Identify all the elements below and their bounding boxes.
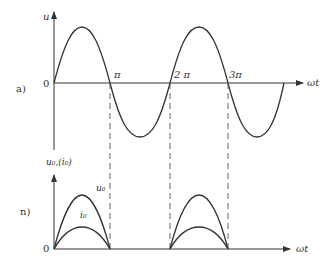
- panel-a-tick-2pi: 2 π: [173, 69, 191, 80]
- dashed-guides: [110, 83, 228, 249]
- u0-arch-1: [54, 195, 110, 249]
- panel-b-y-axis-label: u₀,(i₀): [46, 157, 72, 167]
- u0-curve-label: u₀: [96, 183, 106, 193]
- half-wave-rectifier-waveform-diagram: u 0 a) π 2 π 3π ωt u₀,(i₀) 0 n) u₀ i₀ ωt: [0, 0, 334, 270]
- i0-arch-2: [170, 227, 228, 249]
- panel-a-origin-label: 0: [43, 78, 49, 89]
- panel-b: u₀,(i₀) 0 n) u₀ i₀ ωt: [20, 157, 309, 254]
- panel-a-tick-pi: π: [113, 69, 121, 80]
- panel-a-sine-curve: [54, 27, 284, 137]
- panel-a-x-axis-label: ωt: [307, 77, 320, 88]
- u0-arch-2: [170, 195, 228, 249]
- i0-arch-1: [54, 227, 110, 249]
- i0-curve-label: i₀: [80, 210, 87, 220]
- panel-b-x-axis-label: ωt: [296, 243, 309, 254]
- panel-b-label: n): [20, 206, 30, 217]
- panel-b-origin-label: 0: [43, 243, 49, 254]
- panel-a-tick-3pi: 3π: [229, 69, 242, 80]
- panel-a-y-axis-label: u: [43, 11, 49, 22]
- panel-a: u 0 a) π 2 π 3π ωt: [16, 11, 320, 150]
- panel-a-label: a): [16, 83, 26, 94]
